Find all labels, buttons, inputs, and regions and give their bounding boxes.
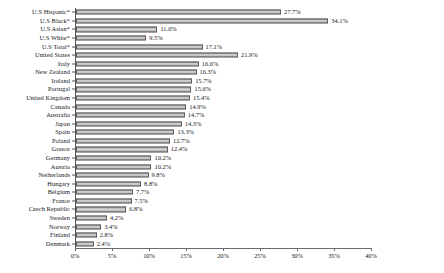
bar — [76, 173, 149, 178]
bar — [76, 95, 190, 100]
bar-row: Belgium7.7% — [75, 188, 371, 197]
category-tick — [72, 37, 75, 38]
x-axis-tick-label: 40% — [365, 253, 377, 259]
bar-value-label: 13.3% — [177, 129, 194, 135]
category-label: Spain — [55, 129, 70, 135]
bar-value-label: 11.0% — [160, 26, 176, 32]
category-label: Netherlands — [39, 172, 70, 178]
category-label: Ireland — [52, 78, 70, 84]
bar-row: Spain13.3% — [75, 128, 371, 137]
category-tick — [72, 123, 75, 124]
bar-value-label: 10.2% — [154, 163, 171, 169]
x-axis-tick — [149, 248, 150, 251]
bar-value-label: 10.2% — [154, 155, 171, 161]
category-label: Belgium — [48, 189, 70, 195]
bar-row: Germany10.2% — [75, 154, 371, 163]
category-label: Portugal — [48, 86, 70, 92]
category-label: Greece — [52, 146, 70, 152]
category-label: Japan — [55, 121, 70, 127]
bar — [76, 181, 141, 186]
category-tick — [72, 157, 75, 158]
x-axis-tick-label: 0% — [71, 253, 80, 259]
bar-row: United States21.9% — [75, 51, 371, 60]
bar-row: U.S Hispanic*27.7% — [75, 8, 371, 17]
category-tick — [72, 46, 75, 47]
category-label: U.S Total* — [42, 43, 70, 49]
category-label: Germany — [46, 155, 70, 161]
bar-value-label: 7.7% — [136, 189, 149, 195]
bar-row: Czech Republic6.8% — [75, 205, 371, 214]
x-axis-tick-label: 20% — [217, 253, 229, 259]
bar-row: Poland12.7% — [75, 137, 371, 146]
bar-value-label: 4.2% — [110, 215, 123, 221]
bar-row: Denmark2.4% — [75, 239, 371, 248]
category-tick — [72, 80, 75, 81]
category-tick — [72, 132, 75, 133]
bar — [76, 164, 151, 169]
bar-row: Norway3.4% — [75, 222, 371, 231]
bar-row: Finland2.8% — [75, 231, 371, 240]
x-axis-tick-label: 10% — [143, 253, 155, 259]
category-tick — [72, 166, 75, 167]
bar-value-label: 14.7% — [188, 112, 205, 118]
category-label: Canada — [51, 103, 70, 109]
bar — [76, 61, 199, 66]
x-axis-tick-label: 5% — [108, 253, 117, 259]
bar — [76, 35, 146, 40]
bar-row: Australia14.7% — [75, 111, 371, 120]
bar — [76, 53, 238, 58]
x-axis-tick-label: 35% — [328, 253, 340, 259]
bar-value-label: 15.7% — [195, 78, 212, 84]
category-tick — [72, 55, 75, 56]
x-axis-tick — [75, 248, 76, 251]
category-label: United Kingdom — [26, 95, 70, 101]
category-tick — [72, 115, 75, 116]
category-tick — [72, 175, 75, 176]
plot-area: U.S Hispanic*27.7%U.S Black*34.1%U.S Asi… — [75, 8, 371, 248]
bar-row: Ireland15.7% — [75, 77, 371, 86]
bar — [76, 70, 197, 75]
x-axis-tick — [112, 248, 113, 251]
bar — [76, 130, 174, 135]
bar-value-label: 2.8% — [100, 232, 113, 238]
bar — [76, 104, 186, 109]
category-tick — [72, 183, 75, 184]
category-label: Finland — [50, 232, 70, 238]
bar — [76, 215, 107, 220]
bar-row: Canada14.9% — [75, 102, 371, 111]
bar-value-label: 3.4% — [104, 223, 117, 229]
horizontal-bar-chart: U.S Hispanic*27.7%U.S Black*34.1%U.S Asi… — [0, 0, 444, 273]
category-tick — [72, 106, 75, 107]
bar — [76, 138, 170, 143]
bar — [76, 113, 185, 118]
bar — [76, 147, 168, 152]
bar-value-label: 12.4% — [171, 146, 188, 152]
bar-row: Japan14.3% — [75, 119, 371, 128]
bar — [76, 44, 203, 49]
bar — [76, 155, 151, 160]
bar — [76, 241, 94, 246]
bar-value-label: 14.9% — [189, 103, 206, 109]
bar-row: Sweden4.2% — [75, 214, 371, 223]
category-label: Austria — [51, 163, 70, 169]
category-label: New Zealand — [35, 69, 70, 75]
bar-value-label: 14.3% — [185, 121, 202, 127]
category-label: Australia — [46, 112, 70, 118]
category-label: U.S White* — [39, 35, 70, 41]
bar-value-label: 8.8% — [144, 181, 157, 187]
category-tick — [72, 192, 75, 193]
category-label: France — [52, 198, 70, 204]
bar-value-label: 27.7% — [284, 9, 301, 15]
category-label: Sweden — [49, 215, 70, 221]
category-tick — [72, 29, 75, 30]
category-label: Poland — [52, 138, 70, 144]
bar — [76, 207, 126, 212]
category-label: Czech Republic — [29, 206, 70, 212]
category-label: Denmark — [46, 241, 70, 247]
bar — [76, 18, 328, 23]
bar — [76, 121, 182, 126]
bar-row: Greece12.4% — [75, 145, 371, 154]
category-tick — [72, 63, 75, 64]
bar-value-label: 7.5% — [135, 198, 148, 204]
bar-row: Portugal15.6% — [75, 85, 371, 94]
